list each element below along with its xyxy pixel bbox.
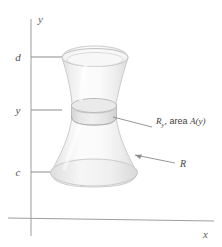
x-axis-label: x bbox=[202, 228, 208, 240]
solid-top-rim-inner bbox=[67, 53, 123, 67]
tick-label-c: c bbox=[16, 166, 21, 178]
figure-canvas: y x d y c bbox=[0, 0, 222, 247]
callout-leader-cross-section bbox=[113, 117, 152, 127]
tick-label-d: d bbox=[15, 51, 21, 63]
slab-top-face bbox=[72, 99, 117, 113]
solid-callout: R bbox=[135, 155, 186, 170]
cross-section-callout: Ry, area A(y) bbox=[113, 116, 205, 128]
cross-section-label: Ry, area A(y) bbox=[155, 116, 205, 128]
cross-section-area-arg: (y) bbox=[195, 116, 205, 126]
cross-section-slab bbox=[72, 99, 117, 126]
y-axis-label: y bbox=[37, 13, 43, 25]
solid-of-revolution bbox=[51, 46, 138, 187]
x-axis bbox=[8, 218, 214, 221]
callout-arrowhead-solid bbox=[135, 155, 142, 160]
solid-base-ellipse bbox=[51, 159, 138, 186]
solid-region-label: R bbox=[179, 158, 186, 169]
tick-label-y: y bbox=[15, 104, 21, 116]
cross-section-comma: , area bbox=[164, 116, 190, 126]
